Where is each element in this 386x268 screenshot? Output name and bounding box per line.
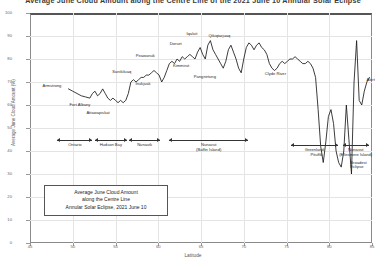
- data-point-label: Attawapiskat: [86, 111, 109, 115]
- region-label: Ontario: [68, 143, 81, 148]
- region-arrow-left-icon: [129, 138, 132, 142]
- legend-line-1: Average June Cloud Amount: [47, 189, 165, 196]
- region-arrow-left-icon: [57, 138, 60, 142]
- region-arrow-right-icon: [335, 143, 338, 147]
- region-bar: [95, 140, 127, 141]
- data-point-label: Alert: [366, 78, 374, 82]
- region-marker: Ontario: [57, 140, 92, 147]
- region-bar: [57, 140, 92, 141]
- region-arrow-left-icon: [343, 143, 346, 147]
- region-arrow-right-icon: [124, 138, 127, 142]
- region-marker: Hudson Bay: [95, 140, 127, 147]
- legend-line-2: along the Centre Line: [47, 196, 165, 203]
- region-marker: Nunavut(Baffin Island): [169, 140, 248, 147]
- data-point-label: Kimmirut: [173, 64, 189, 68]
- data-point-label: Sanikiluaq: [112, 70, 131, 74]
- data-point-label: Pangnirtung: [194, 75, 216, 79]
- region-arrow-left-icon: [169, 138, 172, 142]
- data-point-label: Qikiqtarjuaq: [208, 34, 230, 38]
- region-label: Nunavik: [137, 143, 152, 148]
- data-point-label: Fort Albany: [70, 103, 91, 107]
- data-point-label: Clyde River: [265, 72, 286, 76]
- region-arrow-right-icon: [366, 143, 369, 147]
- region-label: Nunavut(Ellesmere Island): [339, 148, 372, 157]
- region-bar: [129, 140, 160, 141]
- data-point-label: Inukjuak: [135, 82, 150, 86]
- region-arrow-right-icon: [89, 138, 92, 142]
- data-point-label: Iqaluit: [186, 32, 197, 36]
- data-curve: [0, 0, 386, 268]
- region-arrow-right-icon: [157, 138, 160, 142]
- region-bar: [169, 140, 248, 141]
- region-arrow-right-icon: [245, 138, 248, 142]
- data-point-label: Pituffik: [310, 153, 322, 157]
- data-point-label: Armstrong: [42, 84, 61, 88]
- region-marker: Greenland: [291, 145, 338, 152]
- region-label: Hudson Bay: [100, 143, 122, 148]
- region-arrow-left-icon: [291, 143, 294, 147]
- region-label: Greenland: [305, 148, 324, 153]
- region-marker: Nunavik: [129, 140, 160, 147]
- chart-container: Average June Cloud Amount along the Cent…: [0, 0, 386, 268]
- legend-line-3: Annular Solar Eclipse, 2021 June 10: [47, 204, 165, 211]
- legend-textbox: Average June Cloud Amount along the Cent…: [44, 185, 168, 216]
- data-point-label: Peawanuk: [136, 54, 155, 58]
- data-point-label: BroadestEclipse: [350, 161, 366, 170]
- region-label: Nunavut(Baffin Island): [196, 143, 221, 152]
- region-marker: Nunavut(Ellesmere Island): [343, 145, 369, 152]
- region-bar: [291, 145, 338, 146]
- data-point-label: Dorset: [170, 42, 182, 46]
- region-arrow-left-icon: [95, 138, 98, 142]
